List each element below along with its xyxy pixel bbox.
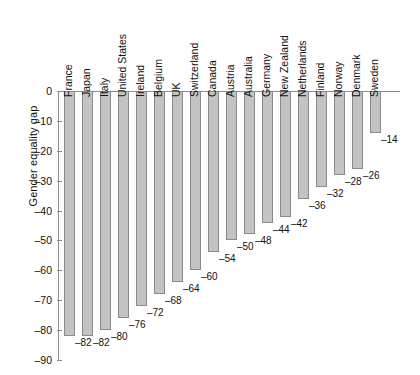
bar: [226, 91, 237, 240]
bar: [334, 91, 345, 175]
bar-category-label: Sweden: [368, 59, 380, 97]
bar: [64, 91, 75, 336]
bar-value-label: –60: [201, 271, 218, 282]
y-tick-label: –90: [34, 354, 52, 366]
y-tick-label: 0: [46, 85, 52, 97]
y-tick-label: –60: [34, 264, 52, 276]
bar: [82, 91, 93, 336]
bar-value-label: –28: [345, 176, 362, 187]
bar-value-label: –14: [381, 134, 398, 145]
bar-category-label: Finland: [314, 63, 326, 97]
y-tick-mark: [57, 211, 62, 212]
bar: [316, 91, 327, 187]
bar-category-label: Switzerland: [188, 43, 200, 97]
bar: [172, 91, 183, 282]
bar-category-label: France: [62, 64, 74, 97]
bar-value-label: –36: [309, 200, 326, 211]
bar-value-label: –76: [129, 319, 146, 330]
bar-category-label: Belgium: [152, 59, 164, 97]
bar-category-label: Canada: [206, 60, 218, 97]
bar-category-label: Ireland: [134, 65, 146, 97]
bar-value-label: –26: [363, 170, 380, 181]
bar-value-label: –44: [273, 224, 290, 235]
bar-value-label: –54: [219, 253, 236, 264]
y-tick-mark: [57, 270, 62, 271]
plot-area: 0–10–20–30–40–50–60–70–80–90 France–82Ja…: [58, 91, 400, 360]
bar: [100, 91, 111, 330]
bar: [136, 91, 147, 306]
y-tick-mark: [57, 181, 62, 182]
bar-value-label: –42: [291, 218, 308, 229]
bar: [262, 91, 273, 223]
bar: [154, 91, 165, 294]
bar: [298, 91, 309, 199]
bar-category-label: Japan: [80, 68, 92, 97]
y-tick-label: –20: [34, 145, 52, 157]
bar-value-label: –68: [165, 295, 182, 306]
y-tick-label: –80: [34, 324, 52, 336]
bar: [244, 91, 255, 234]
y-tick-mark: [57, 151, 62, 152]
bar: [280, 91, 291, 217]
bar-category-label: UK: [170, 82, 182, 97]
bar-value-label: –50: [237, 241, 254, 252]
bar-category-label: Norway: [332, 61, 344, 97]
y-tick-label: –10: [34, 115, 52, 127]
bar-value-label: –82: [75, 337, 92, 348]
bar-value-label: –82: [93, 337, 110, 348]
gender-equality-gap-bar-chart: Gender equality gap 0–10–20–30–40–50–60–…: [0, 0, 420, 375]
bar-value-label: –80: [111, 331, 128, 342]
y-tick-label: –30: [34, 175, 52, 187]
bar-category-label: United States: [116, 34, 128, 97]
bar-value-label: –48: [255, 235, 272, 246]
bar-value-label: –72: [147, 307, 164, 318]
bar-value-label: –64: [183, 283, 200, 294]
y-tick-label: –50: [34, 234, 52, 246]
bar: [118, 91, 129, 318]
y-tick-mark: [57, 300, 62, 301]
y-axis-line: [58, 91, 59, 360]
y-tick-mark: [57, 360, 62, 361]
bar-category-label: Netherlands: [296, 40, 308, 97]
bar: [370, 91, 381, 133]
bar-category-label: Italy: [98, 78, 110, 97]
bar: [352, 91, 363, 169]
y-tick-label: –40: [34, 205, 52, 217]
bar: [190, 91, 201, 270]
bar-category-label: Germany: [260, 54, 272, 97]
bar-category-label: Austria: [224, 64, 236, 97]
bar-value-label: –32: [327, 188, 344, 199]
bar-category-label: New Zealand: [278, 35, 290, 97]
y-tick-mark: [57, 121, 62, 122]
y-tick-mark: [57, 240, 62, 241]
y-tick-label: –70: [34, 294, 52, 306]
bar-category-label: Australia: [242, 56, 254, 97]
bar: [208, 91, 219, 252]
bar-category-label: Denmark: [350, 54, 362, 97]
y-tick-mark: [57, 330, 62, 331]
